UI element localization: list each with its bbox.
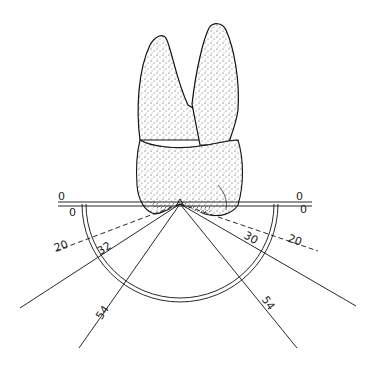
label-left-zero-outer: 0 — [58, 190, 65, 203]
right-30-line — [180, 204, 356, 306]
protractor-arc — [82, 204, 278, 302]
tooth-illustration — [137, 24, 243, 216]
tooth-angle-diagram: 0 0 0 0 20 20 32 30 54 54 — [0, 0, 369, 365]
label-right-zero-inner: 0 — [300, 203, 307, 216]
label-right-30: 30 — [242, 229, 261, 247]
label-left-dashed-20: 20 — [52, 238, 70, 255]
label-right-54: 54 — [259, 294, 278, 313]
label-right-zero-outer: 0 — [296, 190, 303, 203]
right-54-line — [180, 204, 297, 348]
label-left-32: 32 — [95, 239, 114, 258]
left-54-line — [79, 204, 180, 348]
label-left-54: 54 — [93, 303, 112, 322]
label-right-dashed-20: 20 — [286, 232, 303, 249]
right-root — [192, 24, 238, 145]
label-left-zero-inner: 0 — [69, 206, 76, 219]
